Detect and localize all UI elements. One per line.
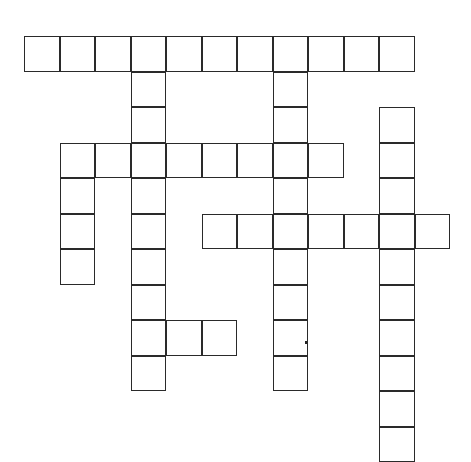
crossword-cell[interactable]	[95, 36, 131, 72]
crossword-cell[interactable]	[60, 178, 96, 214]
crossword-cell[interactable]	[237, 214, 273, 250]
crossword-cell[interactable]	[60, 143, 96, 179]
crossword-cell[interactable]	[379, 427, 415, 462]
crossword-cell[interactable]	[273, 285, 309, 321]
crossword-cell[interactable]	[344, 214, 380, 250]
crossword-cell[interactable]	[273, 36, 309, 72]
crossword-cell[interactable]	[60, 249, 96, 285]
crossword-cell[interactable]	[131, 249, 167, 285]
crossword-cell[interactable]	[202, 320, 238, 356]
crossword-cell[interactable]	[202, 36, 238, 72]
crossword-cell[interactable]	[131, 320, 167, 356]
crossword-cell[interactable]	[237, 143, 273, 179]
crossword-cell[interactable]	[379, 36, 415, 72]
crossword-cell[interactable]	[273, 143, 309, 179]
crossword-cell[interactable]	[95, 143, 131, 179]
crossword-cell[interactable]	[166, 36, 202, 72]
crossword-cell[interactable]	[131, 356, 167, 392]
crossword-cell[interactable]	[202, 143, 238, 179]
stray-mark	[305, 341, 307, 344]
crossword-cell[interactable]	[308, 36, 344, 72]
crossword-cell[interactable]	[379, 143, 415, 179]
crossword-cell[interactable]	[60, 36, 96, 72]
crossword-cell[interactable]	[415, 214, 451, 250]
crossword-cell[interactable]	[273, 72, 309, 108]
crossword-cell[interactable]	[379, 214, 415, 250]
crossword-cell[interactable]	[24, 36, 60, 72]
crossword-cell[interactable]	[131, 143, 167, 179]
crossword-cell[interactable]	[273, 249, 309, 285]
crossword-cell[interactable]	[60, 214, 96, 250]
crossword-cell[interactable]	[131, 72, 167, 108]
crossword-cell[interactable]	[379, 107, 415, 143]
crossword-cell[interactable]	[237, 36, 273, 72]
crossword-cell[interactable]	[379, 249, 415, 285]
crossword-cell[interactable]	[379, 285, 415, 321]
crossword-cell[interactable]	[273, 320, 309, 356]
crossword-cell[interactable]	[273, 107, 309, 143]
crossword-cell[interactable]	[273, 356, 309, 392]
crossword-cell[interactable]	[202, 214, 238, 250]
crossword-cell[interactable]	[379, 178, 415, 214]
crossword-cell[interactable]	[131, 36, 167, 72]
crossword-cell[interactable]	[131, 285, 167, 321]
crossword-cell[interactable]	[379, 391, 415, 427]
crossword-cell[interactable]	[131, 178, 167, 214]
crossword-cell[interactable]	[131, 214, 167, 250]
crossword-cell[interactable]	[344, 36, 380, 72]
crossword-cell[interactable]	[131, 107, 167, 143]
crossword-cell[interactable]	[166, 320, 202, 356]
crossword-cell[interactable]	[273, 214, 309, 250]
crossword-cell[interactable]	[308, 214, 344, 250]
crossword-cell[interactable]	[273, 178, 309, 214]
crossword-cell[interactable]	[379, 320, 415, 356]
crossword-cell[interactable]	[308, 143, 344, 179]
crossword-cell[interactable]	[166, 143, 202, 179]
crossword-cell[interactable]	[379, 356, 415, 392]
